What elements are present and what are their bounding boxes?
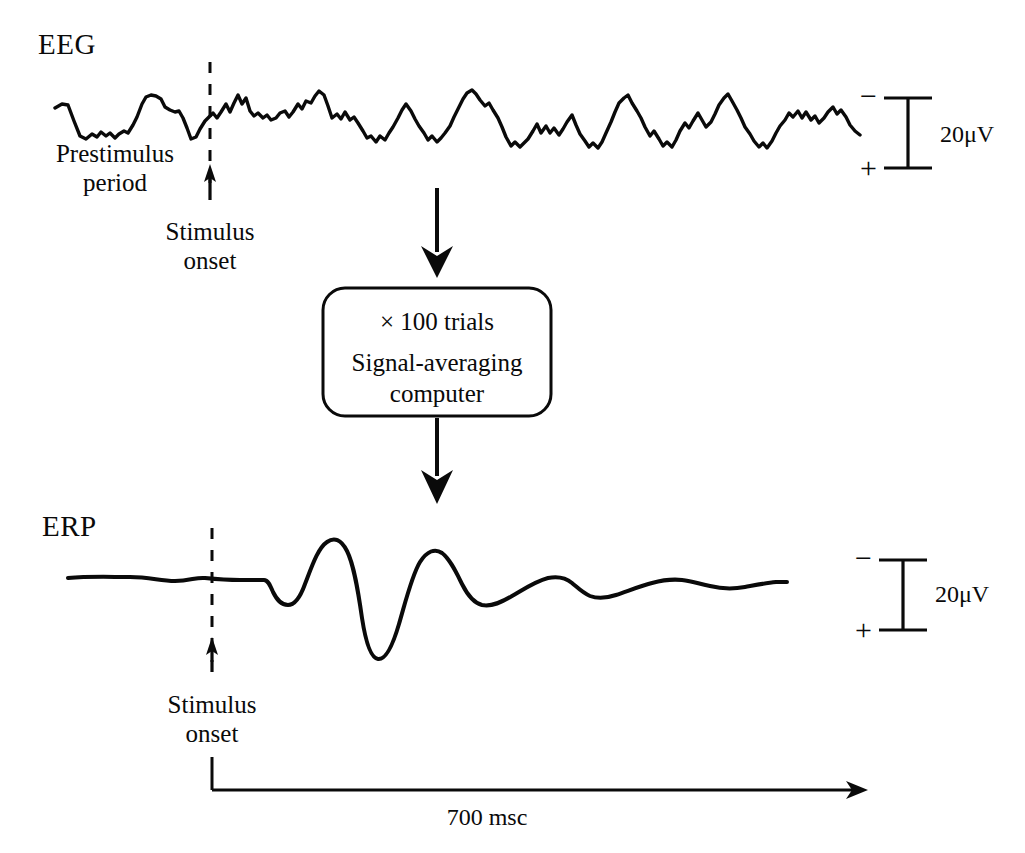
eeg-panel-label: EEG: [38, 28, 96, 60]
eeg-stimulus-onset-label-line1: Stimulus: [166, 218, 255, 245]
eeg-scale-magnitude-label: 20μV: [940, 121, 995, 147]
eeg-erp-figure: EEG Prestimulus period Stimulus onset − …: [0, 0, 1025, 853]
flow-arrow-eeg-to-processor: [421, 188, 453, 278]
processor-name-label-line1: Signal-averaging: [352, 349, 523, 376]
time-axis-duration-label: 700 msc: [447, 804, 528, 830]
prestimulus-label-line1: Prestimulus: [56, 140, 174, 167]
erp-scale-positive-sign: +: [855, 613, 872, 646]
erp-scale-bar: − + 20μV: [855, 541, 990, 646]
erp-panel-label: ERP: [42, 510, 97, 542]
flow-arrow-processor-to-erp: [421, 418, 453, 504]
erp-waveform: [68, 539, 787, 659]
processor-name-label-line2: computer: [390, 380, 485, 407]
erp-scale-negative-sign: −: [855, 541, 872, 574]
erp-stimulus-onset-label-line1: Stimulus: [168, 691, 257, 718]
figure-canvas: EEG Prestimulus period Stimulus onset − …: [0, 0, 1025, 853]
eeg-scale-negative-sign: −: [860, 79, 877, 112]
time-axis: 700 msc: [212, 757, 868, 830]
eeg-stimulus-onset-label-line2: onset: [184, 247, 237, 274]
prestimulus-label-line2: period: [83, 169, 147, 196]
erp-scale-magnitude-label: 20μV: [935, 581, 990, 607]
processor-trials-label: × 100 trials: [380, 308, 494, 335]
eeg-scale-bar: − + 20μV: [860, 79, 995, 184]
erp-stimulus-onset-label-line2: onset: [186, 720, 239, 747]
eeg-waveform: [55, 90, 860, 148]
eeg-scale-positive-sign: +: [860, 151, 877, 184]
